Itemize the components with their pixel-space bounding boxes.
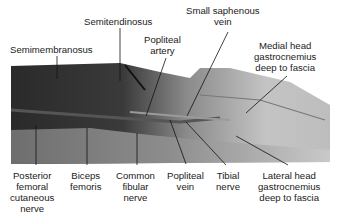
- label-posterior-femoral-cutaneous-nerve: Posterior femoral cutaneous nerve: [10, 170, 54, 214]
- label-popliteal-vein: Popliteal vein: [167, 170, 204, 192]
- label-biceps-femoris: Biceps femoris: [70, 170, 101, 192]
- label-semimembranosus: Semimembranosus: [10, 44, 93, 55]
- label-popliteal-artery: Popliteal artery: [144, 34, 181, 56]
- label-tibial-nerve: Tibial nerve: [216, 170, 240, 192]
- label-lateral-head-gastrocnemius: Lateral head gastrocnemius deep to fasci…: [258, 170, 320, 203]
- label-common-fibular-nerve: Common fibular nerve: [116, 170, 155, 203]
- label-small-saphenous-vein: Small saphenous vein: [186, 5, 260, 27]
- label-semitendinosus: Semitendinosus: [84, 16, 152, 27]
- label-medial-head-gastrocnemius: Medial head gastrocnemius deep to fascia: [254, 40, 316, 73]
